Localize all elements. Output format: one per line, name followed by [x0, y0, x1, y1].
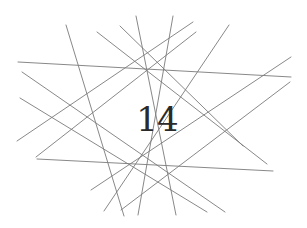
line-segment	[22, 72, 225, 212]
line-arrangement-diagram: 14	[0, 0, 307, 228]
line-segment	[37, 159, 273, 171]
center-number-label: 14	[135, 99, 179, 139]
